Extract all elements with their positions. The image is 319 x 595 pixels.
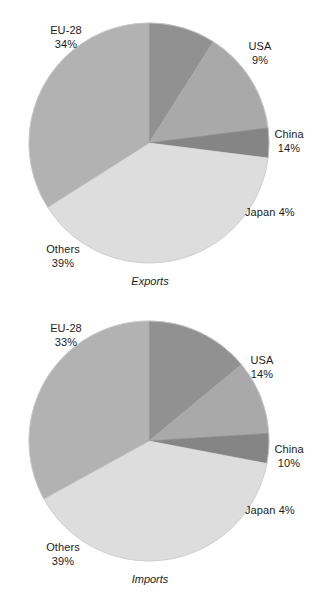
slice-label-others-value: 39% — [32, 555, 94, 569]
slice-label-eu28-name: EU-28 — [33, 24, 99, 38]
slice-label-others: Others 39% — [32, 243, 94, 270]
slice-label-china-value: 14% — [264, 142, 314, 156]
slice-label-china-name: China — [264, 443, 314, 457]
slice-label-others-name: Others — [32, 243, 94, 257]
chart-caption-imports: Imports — [109, 573, 191, 585]
slice-label-china-value: 10% — [264, 457, 314, 471]
slice-label-eu28: EU-28 34% — [33, 24, 99, 51]
pie-chart-imports: EU-28 33% USA 14% China 10% Japan 4% Oth… — [0, 298, 319, 595]
slice-label-others-name: Others — [32, 541, 94, 555]
slice-label-japan-text: Japan 4% — [245, 206, 295, 218]
slice-label-japan: Japan 4% — [245, 206, 315, 220]
chart-caption-exports: Exports — [109, 275, 191, 287]
slice-label-eu28-value: 33% — [33, 336, 99, 350]
slice-label-eu28-name: EU-28 — [33, 322, 99, 336]
slice-label-china: China 14% — [264, 128, 314, 155]
slice-label-others: Others 39% — [32, 541, 94, 568]
slice-label-usa-value: 9% — [233, 54, 287, 68]
slice-label-eu28-value: 34% — [33, 38, 99, 52]
slice-label-usa-value: 14% — [235, 368, 289, 382]
pie-chart-exports: EU-28 34% USA 9% China 14% Japan 4% Othe… — [0, 0, 319, 297]
pie-imports-slices — [29, 321, 269, 561]
slice-label-japan: Japan 4% — [245, 504, 315, 518]
slice-label-china: China 10% — [264, 443, 314, 470]
slice-label-eu28: EU-28 33% — [33, 322, 99, 349]
slice-label-usa-name: USA — [235, 354, 289, 368]
slice-label-japan-text: Japan 4% — [245, 504, 295, 516]
slice-label-usa: USA 9% — [233, 40, 287, 67]
slice-label-usa: USA 14% — [235, 354, 289, 381]
slice-label-others-value: 39% — [32, 257, 94, 271]
slice-label-china-name: China — [264, 128, 314, 142]
slice-label-usa-name: USA — [233, 40, 287, 54]
